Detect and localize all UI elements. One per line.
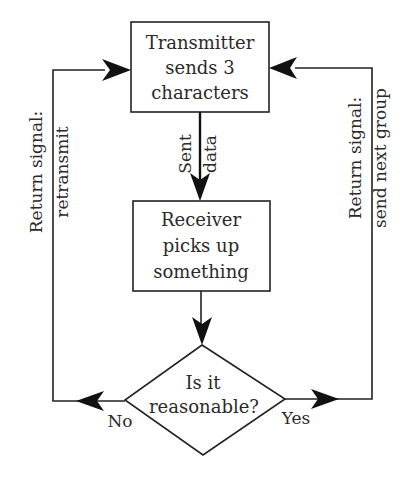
no-branch-label: No: [107, 411, 132, 431]
yes-loop-label-1: Return signal:: [345, 97, 365, 219]
edge-to-decision: [192, 291, 212, 345]
transmitter-line-1: Transmitter: [146, 32, 255, 53]
no-loop-line: [53, 70, 125, 401]
sent-data-label-1: Sent: [175, 134, 195, 174]
edge-no-branch: [53, 59, 131, 411]
no-loop-label-1: Return signal:: [26, 111, 46, 233]
node-decision: Is it reasonable?: [125, 345, 285, 455]
arrow-left-into-transmitter-icon: [269, 57, 297, 79]
arrow-down-to-decision-icon: [192, 317, 212, 345]
yes-loop-label-2: send next group: [370, 88, 390, 228]
sent-data-label-2: data: [200, 135, 220, 173]
receiver-line-1: Receiver: [161, 209, 242, 230]
no-loop-label-2: retransmit: [52, 126, 72, 218]
decision-line-1: Is it: [185, 372, 221, 393]
node-receiver: Receiver picks up something: [133, 201, 270, 291]
node-transmitter: Transmitter sends 3 characters: [131, 22, 269, 112]
edge-sent-data: Sent data: [175, 112, 220, 201]
transmitter-line-3: characters: [151, 82, 249, 103]
yes-branch-label: Yes: [281, 408, 311, 428]
receiver-line-2: picks up: [163, 235, 239, 256]
transmitter-line-2: sends 3: [165, 57, 234, 78]
arrow-right-into-transmitter-icon: [102, 59, 131, 81]
decision-line-2: reasonable?: [149, 396, 259, 417]
receiver-line-3: something: [153, 261, 249, 282]
flowchart-canvas: Transmitter sends 3 characters Sent data…: [0, 0, 414, 481]
